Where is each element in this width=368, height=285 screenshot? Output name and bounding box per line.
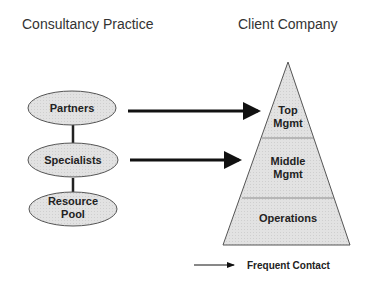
node-specialists: Specialists <box>28 143 118 177</box>
legend: Frequent Contact <box>194 260 330 271</box>
node-partners: Partners <box>28 91 116 125</box>
level-top-mgmt-line1: Top <box>278 104 298 116</box>
node-resource-pool-label-line2: Pool <box>61 208 85 220</box>
level-middle-mgmt-line2: Mgmt <box>273 168 303 180</box>
diagram-canvas: Consultancy Practice Client Company Part… <box>0 0 368 285</box>
node-partners-label: Partners <box>50 102 95 114</box>
node-resource-pool: Resource Pool <box>29 192 117 226</box>
level-top-mgmt-line2: Mgmt <box>273 117 303 129</box>
node-specialists-label: Specialists <box>44 154 101 166</box>
node-resource-pool-label-line1: Resource <box>48 195 98 207</box>
client-company-heading: Client Company <box>238 16 338 32</box>
level-middle-mgmt-line1: Middle <box>271 155 306 167</box>
level-operations: Operations <box>259 212 317 224</box>
legend-label: Frequent Contact <box>247 260 330 271</box>
client-pyramid: Top Mgmt Middle Mgmt Operations <box>223 62 350 245</box>
consultancy-practice-heading: Consultancy Practice <box>22 16 154 32</box>
